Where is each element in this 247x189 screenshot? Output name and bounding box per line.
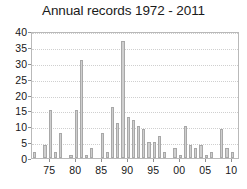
x-tick-label: 75: [43, 165, 55, 176]
x-tick-mark: [49, 159, 50, 162]
y-tick-label: 0: [21, 154, 27, 165]
bar: [158, 136, 161, 158]
bar: [194, 148, 197, 158]
bar: [85, 155, 88, 158]
bar: [33, 152, 36, 158]
bar: [142, 129, 145, 158]
bar: [90, 148, 93, 158]
y-tick-label: 30: [15, 59, 27, 70]
bar: [179, 155, 182, 158]
bar: [189, 145, 192, 158]
y-tick-label: 10: [15, 122, 27, 133]
y-tick-label: 25: [15, 74, 27, 85]
x-tick-label: 85: [95, 165, 107, 176]
bar: [116, 123, 119, 158]
bar: [101, 133, 104, 158]
bar: [132, 120, 135, 158]
bar: [59, 133, 62, 158]
chart-title: Annual records 1972 - 2011: [0, 3, 247, 18]
x-tick-label: 80: [69, 165, 81, 176]
bar: [210, 152, 213, 158]
bar: [106, 152, 109, 158]
y-tick-label: 35: [15, 43, 27, 54]
x-tick-mark: [179, 159, 180, 162]
bar: [75, 110, 78, 158]
x-tick-mark: [75, 159, 76, 162]
bar: [153, 142, 156, 158]
bar: [137, 126, 140, 158]
x-tick-mark: [101, 159, 102, 162]
bar: [54, 152, 57, 158]
bar: [163, 152, 166, 158]
bar: [127, 117, 130, 158]
bar-chart-figure: Annual records 1972 - 2011 0510152025303…: [0, 0, 247, 189]
x-tick-label: 05: [199, 165, 211, 176]
y-tick-label: 20: [15, 90, 27, 101]
x-tick-label: 90: [121, 165, 133, 176]
bar-series: [32, 33, 238, 158]
y-tick-label: 40: [15, 27, 27, 38]
bar: [49, 110, 52, 158]
bar: [147, 142, 150, 158]
bar: [80, 60, 83, 158]
bar: [199, 145, 202, 158]
x-axis: 7580859095000510: [31, 159, 239, 189]
bar: [220, 129, 223, 158]
y-axis: 0510152025303540: [0, 32, 31, 159]
bar: [69, 155, 72, 158]
bar: [111, 107, 114, 158]
bar: [205, 155, 208, 158]
bar: [231, 152, 234, 158]
y-tick-label: 5: [21, 138, 27, 149]
x-tick-label: 10: [225, 165, 237, 176]
y-tick-label: 15: [15, 106, 27, 117]
plot-area: [31, 32, 239, 159]
x-tick-mark: [205, 159, 206, 162]
bar: [43, 145, 46, 158]
bar: [225, 148, 228, 158]
x-tick-label: 95: [147, 165, 159, 176]
x-tick-label: 00: [173, 165, 185, 176]
x-tick-mark: [127, 159, 128, 162]
bar: [173, 148, 176, 158]
bar: [121, 41, 124, 158]
x-tick-mark: [231, 159, 232, 162]
x-tick-mark: [153, 159, 154, 162]
bar: [184, 126, 187, 158]
